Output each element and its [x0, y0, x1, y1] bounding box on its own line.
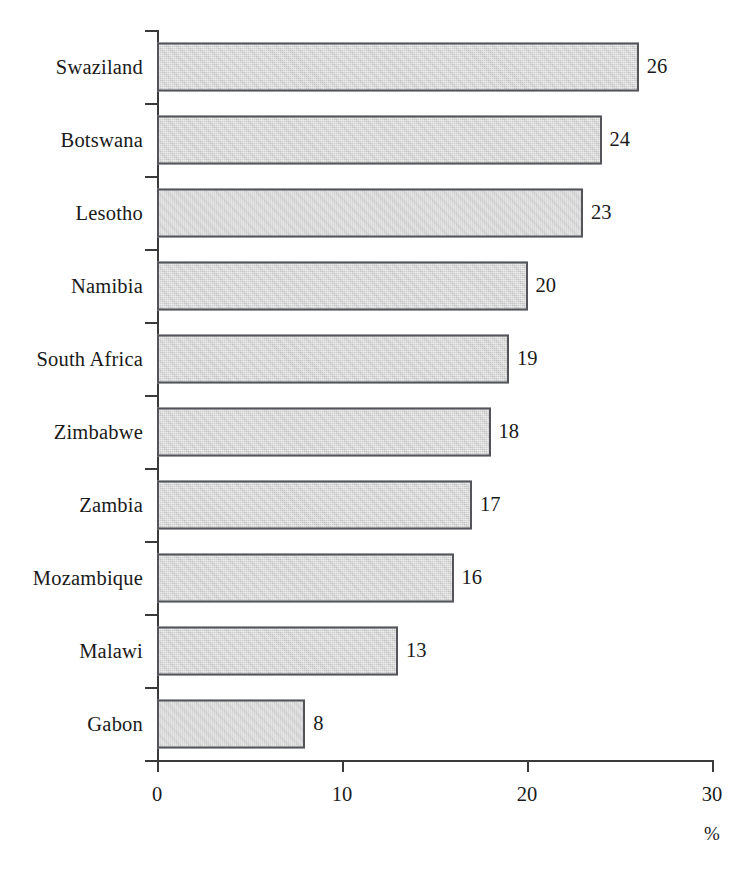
bar-value-label: 19 [517, 347, 538, 370]
x-axis-tick-label: 20 [517, 783, 538, 806]
y-axis-tick [145, 614, 157, 616]
bar: 20 [157, 261, 528, 310]
bar: 16 [157, 553, 454, 602]
bar-row: South Africa 19 [157, 322, 713, 395]
y-axis-tick [145, 30, 157, 32]
bar-value-label: 20 [536, 274, 557, 297]
y-axis-tick [145, 395, 157, 397]
x-axis-line [157, 760, 714, 762]
bar: 24 [157, 115, 602, 164]
bar-value-label: 18 [499, 420, 520, 443]
x-axis-tick [157, 760, 159, 772]
x-axis-tick-label: 30 [702, 783, 723, 806]
bar: 19 [157, 334, 509, 383]
y-axis-tick [145, 249, 157, 251]
category-label: Lesotho [76, 201, 143, 224]
x-axis-tick-label: 0 [152, 783, 162, 806]
x-axis-tick [342, 760, 344, 772]
horizontal-bar-chart: Swaziland 26 Botswana 24 Lesotho 23 Nami… [0, 0, 750, 872]
y-axis-tick [145, 176, 157, 178]
category-label: Zimbabwe [54, 420, 143, 443]
bar-row: Zambia 17 [157, 468, 713, 541]
bar-value-label: 16 [462, 566, 483, 589]
x-axis-tick [712, 760, 714, 772]
bar-row: Gabon 8 [157, 687, 713, 760]
bar: 23 [157, 188, 583, 237]
bar: 13 [157, 626, 398, 675]
category-label: Namibia [71, 274, 143, 297]
category-label: Zambia [79, 493, 143, 516]
bar-row: Mozambique 16 [157, 541, 713, 614]
bar-row: Swaziland 26 [157, 30, 713, 103]
category-label: South Africa [36, 347, 143, 370]
bar-value-label: 17 [480, 493, 501, 516]
bar-value-label: 23 [591, 201, 612, 224]
bar: 17 [157, 480, 472, 529]
bar-row: Zimbabwe 18 [157, 395, 713, 468]
bar-row: Lesotho 23 [157, 176, 713, 249]
bar-value-label: 8 [313, 712, 323, 735]
y-axis-tick [145, 760, 157, 762]
y-axis-tick [145, 541, 157, 543]
bar: 8 [157, 699, 305, 748]
bar-value-label: 13 [406, 639, 427, 662]
y-axis-tick [145, 687, 157, 689]
x-axis-unit-label: % [704, 823, 720, 845]
bar-row: Malawi 13 [157, 614, 713, 687]
plot-area: Swaziland 26 Botswana 24 Lesotho 23 Nami… [157, 30, 713, 760]
bar-value-label: 24 [610, 128, 631, 151]
bar-row: Botswana 24 [157, 103, 713, 176]
category-label: Botswana [61, 128, 143, 151]
y-axis-tick [145, 468, 157, 470]
x-axis-tick [527, 760, 529, 772]
bar: 18 [157, 407, 491, 456]
category-label: Swaziland [56, 55, 143, 78]
category-label: Gabon [87, 712, 143, 735]
y-axis-tick [145, 322, 157, 324]
category-label: Mozambique [33, 566, 143, 589]
bar-row: Namibia 20 [157, 249, 713, 322]
category-label: Malawi [79, 639, 143, 662]
y-axis-tick [145, 103, 157, 105]
bar: 26 [157, 42, 639, 91]
bar-value-label: 26 [647, 55, 668, 78]
x-axis-tick-label: 10 [332, 783, 353, 806]
